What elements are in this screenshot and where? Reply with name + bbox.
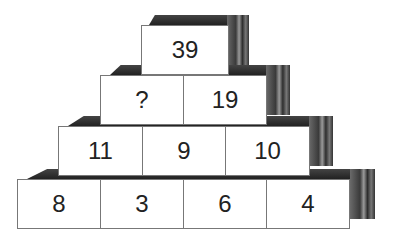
pyramid-cell-apex: 39 (141, 25, 229, 75)
pyramid-cell: 4 (266, 179, 350, 229)
pyramid-cell: 10 (225, 126, 310, 176)
pyramid-cell: 8 (17, 179, 101, 229)
pyramid-cell: 3 (100, 179, 184, 229)
pyramid-row-1: 39 (141, 25, 261, 75)
row-depth-side (227, 15, 249, 65)
pyramid-row-3: 11 9 10 (58, 126, 348, 176)
pyramid-row-2: ? 19 (100, 75, 310, 125)
pyramid-cell: 11 (58, 126, 143, 176)
pyramid-cell-unknown: ? (100, 75, 184, 125)
row-depth-side (309, 116, 333, 166)
row-depth-side (266, 65, 290, 115)
number-pyramid: 8 3 6 4 11 9 10 ? 19 39 (0, 0, 395, 249)
pyramid-cell: 19 (183, 75, 267, 125)
pyramid-cell: 6 (183, 179, 267, 229)
row-depth-side (350, 169, 375, 219)
pyramid-cell: 9 (142, 126, 226, 176)
pyramid-row-4: 8 3 6 4 (17, 179, 377, 229)
